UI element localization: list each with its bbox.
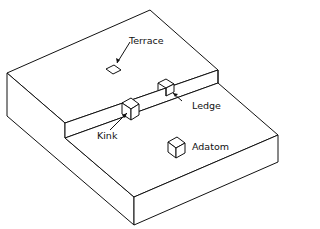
label-kink: Kink (97, 131, 117, 141)
label-terrace: Terrace (129, 36, 164, 46)
label-adatom: Adatom (192, 142, 229, 152)
label-ledge: Ledge (192, 101, 221, 111)
